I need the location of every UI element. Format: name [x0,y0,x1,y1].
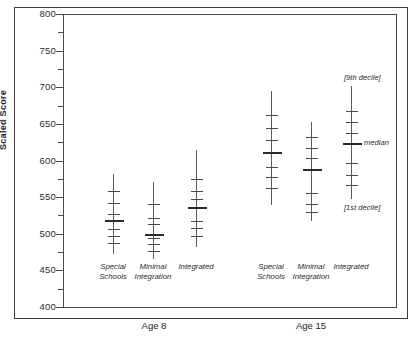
decile-spike [351,86,352,200]
y-tick-minor [58,252,63,253]
decile-tick [108,236,120,237]
annotation-median: median [364,138,389,147]
decile-tick [266,115,278,116]
y-tick-major [56,14,63,15]
y-tick-label: 450 [4,264,56,275]
y-tick-label: 600 [4,155,56,166]
decile-tick [306,204,318,205]
decile-tick [148,238,160,239]
decile-tick [148,251,160,252]
decile-spike [113,174,114,254]
decile-tick [266,128,278,129]
plot-top-border [63,14,397,15]
y-tick-major [56,161,63,162]
decile-tick [108,214,120,215]
decile-tick [191,179,203,180]
decile-tick [108,191,120,192]
decile-tick [191,191,203,192]
decile-spike [311,122,312,221]
y-tick-minor [58,179,63,180]
decile-tick [346,175,358,176]
decile-tick [148,224,160,225]
median-tick [263,152,282,154]
decile-tick [191,221,203,222]
decile-spike [196,150,197,247]
decile-tick [306,148,318,149]
group-label-line: Integration [126,272,180,282]
decile-tick [191,228,203,229]
chart-figure: Scaled Score 400450500550600650700750800… [0,0,419,339]
group-label: Integrated [324,262,378,272]
y-tick-major [56,270,63,271]
decile-tick [346,122,358,123]
decile-tick [108,203,120,204]
annotation-9th-decile: [9th decile] [344,73,381,82]
y-tick-major [56,124,63,125]
decile-tick [306,137,318,138]
decile-tick [148,204,160,205]
y-tick-label: 650 [4,118,56,129]
median-tick [303,169,322,171]
median-tick [105,220,124,222]
y-tick-minor [58,69,63,70]
decile-tick [346,163,358,164]
y-tick-minor [58,289,63,290]
y-axis-line [63,14,64,308]
y-tick-label: 800 [4,8,56,19]
y-tick-major [56,197,63,198]
decile-tick [191,236,203,237]
annotation-1st-decile: [1st decile] [344,203,380,212]
group-label-line: Integrated [169,262,223,272]
decile-tick [191,199,203,200]
y-tick-minor [58,142,63,143]
decile-tick [306,193,318,194]
decile-tick [266,177,278,178]
decile-tick [266,140,278,141]
decile-tick [306,212,318,213]
decile-spike [271,91,272,205]
y-tick-major [56,51,63,52]
median-tick [188,207,207,209]
x-axis-line [63,307,397,308]
y-tick-label: 500 [4,228,56,239]
y-tick-label: 700 [4,81,56,92]
median-tick [343,143,362,145]
decile-tick [346,111,358,112]
y-tick-major [56,234,63,235]
y-tick-minor [58,215,63,216]
plot-right-border [396,14,397,308]
decile-tick [108,229,120,230]
decile-tick [346,185,358,186]
y-tick-major [56,307,63,308]
decile-tick [148,218,160,219]
decile-tick [266,167,278,168]
age-group-label: Age 15 [266,320,356,331]
spike-range-line [153,182,154,258]
decile-spike [153,182,154,258]
y-tick-minor [58,106,63,107]
group-label-line: Integration [284,272,338,282]
y-tick-major [56,87,63,88]
y-tick-minor [58,32,63,33]
decile-tick [346,133,358,134]
y-tick-label: 750 [4,45,56,56]
y-tick-label: 400 [4,301,56,312]
decile-tick [266,188,278,189]
decile-tick [306,158,318,159]
age-group-label: Age 8 [109,320,199,331]
decile-tick [108,243,120,244]
y-axis-tick-labels: 400450500550600650700750800 [0,0,56,339]
y-tick-label: 550 [4,191,56,202]
group-label: Integrated [169,262,223,272]
group-label-line: Integrated [324,262,378,272]
decile-tick [148,244,160,245]
median-tick [145,234,164,236]
